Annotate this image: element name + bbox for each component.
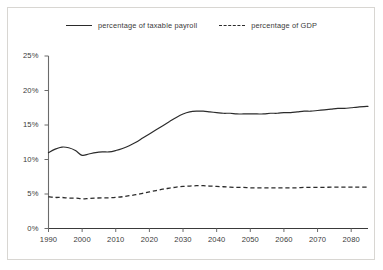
x-axis-tick-label: 2080	[334, 235, 368, 244]
x-axis-tick-label: 2000	[65, 235, 99, 244]
x-axis-tick-label: 1990	[32, 235, 66, 244]
y-axis-tick-label: 25%	[13, 51, 39, 60]
x-axis-tick-label: 2030	[166, 235, 200, 244]
y-axis-tick-label: 0%	[13, 224, 39, 233]
x-axis-tick-label: 2060	[267, 235, 301, 244]
y-axis-ticks	[45, 56, 49, 229]
y-axis-tick-label: 5%	[13, 189, 39, 198]
chart-figure: percentage of taxable payroll percentage…	[0, 0, 383, 270]
x-axis-tick-label: 2020	[132, 235, 166, 244]
x-axis-tick-label: 2040	[200, 235, 234, 244]
x-axis-tick-label: 2050	[233, 235, 267, 244]
y-axis-tick-label: 15%	[13, 120, 39, 129]
y-axis-tick-label: 20%	[13, 86, 39, 95]
x-axis-tick-label: 2070	[301, 235, 335, 244]
y-axis-tick-label: 10%	[13, 155, 39, 164]
series-line-taxable-payroll	[49, 106, 369, 155]
x-axis-tick-label: 2010	[99, 235, 133, 244]
plot-area	[0, 0, 383, 270]
series-line-gdp	[49, 186, 369, 199]
axes-group	[49, 56, 369, 229]
